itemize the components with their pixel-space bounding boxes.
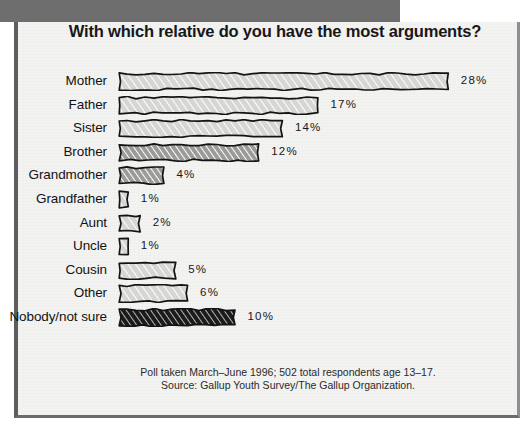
- bar-shape: [118, 72, 450, 91]
- category-label-aunt: Aunt: [0, 212, 107, 236]
- bar-nobody-not-sure: [118, 308, 237, 327]
- bar-shape: [118, 143, 260, 162]
- bar-row: Sister 14%: [0, 117, 532, 141]
- bar-shape: [118, 284, 189, 303]
- bar-row: Grandfather 1%: [0, 188, 532, 212]
- bar-sister: [118, 119, 284, 138]
- bar-shape: [118, 237, 130, 256]
- category-label-mother: Mother: [0, 70, 107, 94]
- value-label-other: 6%: [200, 283, 219, 302]
- bar-row: Nobody/not sure 10%: [0, 306, 532, 330]
- value-label-nobody-not-sure: 10%: [248, 307, 275, 326]
- category-label-nobody-not-sure: Nobody/not sure: [0, 306, 107, 330]
- value-label-father: 17%: [330, 95, 357, 114]
- bar-row: Father 17%: [0, 94, 532, 118]
- bar-chart-plot-area: Mother 28%Father: [0, 70, 532, 332]
- bar-row: Other 6%: [0, 282, 532, 306]
- bar-row: Mother 28%: [0, 70, 532, 94]
- bar-cousin: [118, 261, 177, 280]
- footnote-source: Source: Gallup Youth Survey/The Gallup O…: [0, 379, 532, 393]
- category-label-uncle: Uncle: [0, 235, 107, 259]
- bar-grandmother: [118, 166, 165, 185]
- value-label-mother: 28%: [461, 71, 488, 90]
- category-label-father: Father: [0, 94, 107, 118]
- bar-shape: [118, 190, 130, 209]
- bar-shape: [118, 261, 177, 280]
- chart-title: With which relative do you have the most…: [0, 22, 532, 41]
- value-label-brother: 12%: [271, 142, 298, 161]
- value-label-grandfather: 1%: [141, 189, 160, 208]
- bar-row: Aunt 2%: [0, 212, 532, 236]
- category-label-other: Other: [0, 282, 107, 306]
- bar-other: [118, 284, 189, 303]
- category-label-grandmother: Grandmother: [0, 164, 107, 188]
- bar-father: [118, 96, 319, 115]
- bar-row: Grandmother 4%: [0, 164, 532, 188]
- category-label-grandfather: Grandfather: [0, 188, 107, 212]
- category-label-cousin: Cousin: [0, 259, 107, 283]
- bar-shape: [118, 166, 165, 185]
- category-label-brother: Brother: [0, 141, 107, 165]
- bar-shape: [118, 119, 284, 138]
- value-label-uncle: 1%: [141, 236, 160, 255]
- value-label-grandmother: 4%: [176, 165, 195, 184]
- page-header-band: [0, 0, 400, 22]
- bar-shape: [118, 308, 237, 327]
- bar-aunt: [118, 214, 142, 233]
- footnote-poll-info: Poll taken March–June 1996; 502 total re…: [0, 366, 532, 380]
- bar-row: Brother 12%: [0, 141, 532, 165]
- bar-shape: [118, 214, 142, 233]
- bar-mother: [118, 72, 450, 91]
- value-label-aunt: 2%: [153, 213, 172, 232]
- value-label-sister: 14%: [295, 118, 322, 137]
- chart-page: With which relative do you have the most…: [0, 0, 532, 438]
- bar-shape: [118, 96, 319, 115]
- bar-row: Cousin 5%: [0, 259, 532, 283]
- category-label-sister: Sister: [0, 117, 107, 141]
- bar-brother: [118, 143, 260, 162]
- bar-grandfather: [118, 190, 130, 209]
- value-label-cousin: 5%: [188, 260, 207, 279]
- bar-row: Uncle 1%: [0, 235, 532, 259]
- bar-uncle: [118, 237, 130, 256]
